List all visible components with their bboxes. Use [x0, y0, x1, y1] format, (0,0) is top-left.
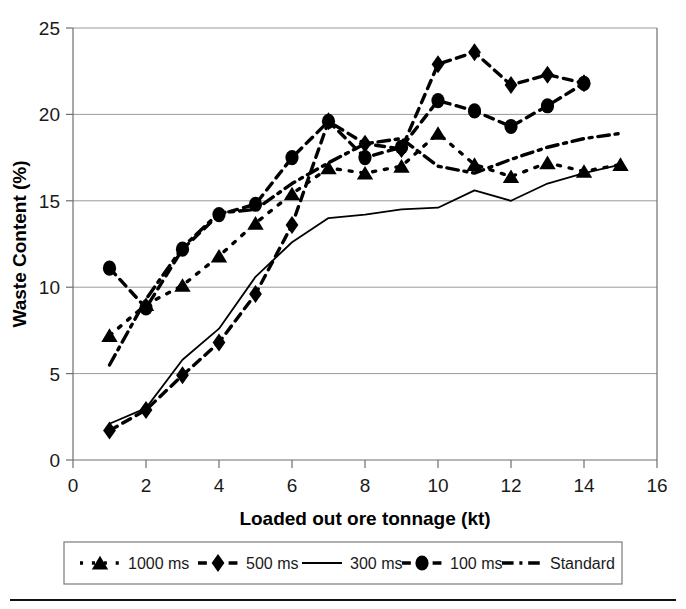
- x-tick-label-8: 8: [360, 475, 371, 496]
- legend-item-100-ms[interactable]: 100 ms: [402, 555, 502, 572]
- x-tick-label-14: 14: [573, 475, 595, 496]
- y-tick-label-15: 15: [39, 191, 60, 212]
- x-tick-labels: 0246810121416: [68, 475, 668, 496]
- legend-item-1000-ms[interactable]: 1000 ms: [80, 555, 189, 572]
- series-line: [110, 165, 621, 424]
- legend-label: 1000 ms: [128, 555, 189, 572]
- y-axis-title: Waste Content (%): [9, 160, 30, 327]
- circle-marker: [504, 119, 517, 134]
- x-tick-label-12: 12: [500, 475, 521, 496]
- series-500-ms: [103, 43, 590, 439]
- triangle-marker: [101, 328, 117, 342]
- series-line: [110, 83, 585, 308]
- x-tick-label-0: 0: [68, 475, 79, 496]
- series-300-ms: [110, 165, 621, 424]
- legend-diamond-icon: [212, 554, 225, 572]
- waste-content-chart: 0510152025 0246810121416 Loaded out ore …: [0, 0, 686, 609]
- y-tick-label-0: 0: [49, 450, 60, 471]
- circle-marker: [577, 76, 590, 91]
- diamond-marker: [541, 66, 554, 84]
- triangle-marker: [539, 156, 555, 170]
- circle-marker: [358, 150, 371, 165]
- x-tick-label-4: 4: [214, 475, 225, 496]
- triangle-marker: [430, 126, 446, 140]
- legend-label: 500 ms: [246, 555, 298, 572]
- x-tick-label-2: 2: [141, 475, 152, 496]
- y-tick-label-25: 25: [39, 18, 60, 39]
- legend-label: 100 ms: [450, 555, 502, 572]
- y-tick-label-5: 5: [49, 364, 60, 385]
- legend-item-500-ms[interactable]: 500 ms: [198, 554, 298, 572]
- diamond-marker: [505, 76, 518, 94]
- diamond-marker: [213, 333, 226, 351]
- diamond-marker: [249, 285, 262, 303]
- circle-marker: [285, 150, 298, 165]
- legend-label: Standard: [550, 555, 615, 572]
- diamond-marker: [468, 43, 481, 61]
- x-axis-title: Loaded out ore tonnage (kt): [239, 508, 490, 529]
- x-tick-label-16: 16: [646, 475, 667, 496]
- circle-marker: [103, 261, 116, 276]
- x-tick-label-6: 6: [287, 475, 298, 496]
- circle-marker: [322, 114, 335, 129]
- diamond-marker: [286, 216, 299, 234]
- legend-item-standard[interactable]: Standard: [502, 555, 615, 572]
- y-tick-labels: 0510152025: [39, 18, 60, 471]
- legend-label: 300 ms: [350, 555, 402, 572]
- y-tick-label-10: 10: [39, 277, 60, 298]
- circle-marker: [541, 98, 554, 113]
- axis-titles: Loaded out ore tonnage (kt)Waste Content…: [9, 160, 491, 529]
- circle-marker: [431, 93, 444, 108]
- series-100-ms: [103, 76, 591, 316]
- x-tick-label-10: 10: [427, 475, 448, 496]
- circle-marker: [468, 103, 481, 118]
- series-markers: [103, 76, 591, 316]
- chart-legend: 1000 ms500 ms300 ms100 msStandard: [64, 542, 622, 584]
- y-tick-label-20: 20: [39, 104, 60, 125]
- figure-container: 0510152025 0246810121416 Loaded out ore …: [0, 0, 686, 609]
- legend-circle-icon: [415, 555, 428, 570]
- data-series: [101, 43, 628, 439]
- triangle-marker: [503, 169, 519, 183]
- legend-item-300-ms[interactable]: 300 ms: [302, 555, 402, 572]
